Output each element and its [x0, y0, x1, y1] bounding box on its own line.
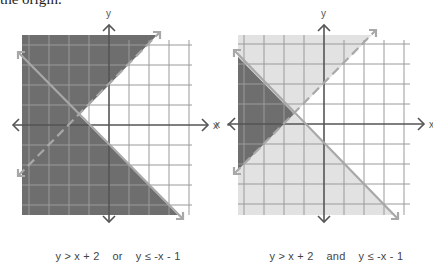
right-caption-connector: and: [327, 250, 346, 262]
left-caption-ineq-1: y > x + 2: [56, 250, 100, 262]
left-caption: y > x + 2 or y ≤ -x - 1: [49, 238, 180, 262]
right-cut-x-label: x: [215, 119, 220, 130]
right-caption-ineq-1: y > x + 2: [270, 250, 314, 262]
right-y-axis-label: y: [321, 8, 326, 19]
right-graph: x y x: [215, 0, 433, 232]
right-caption: y > x + 2 and y ≤ -x - 1: [263, 238, 403, 262]
left-graph: x y: [0, 0, 225, 232]
right-caption-ineq-2: y ≤ -x - 1: [359, 250, 404, 262]
left-y-axis-label: y: [106, 8, 111, 19]
right-x-axis-label: x: [429, 119, 433, 130]
left-caption-connector: or: [113, 250, 123, 262]
left-caption-ineq-2: y ≤ -x - 1: [136, 250, 181, 262]
